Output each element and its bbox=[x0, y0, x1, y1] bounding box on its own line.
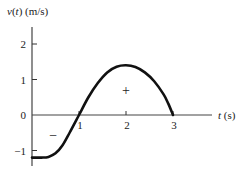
negative-area-sign: − bbox=[49, 128, 57, 143]
x-tick-label: 2 bbox=[124, 119, 130, 131]
y-axis-label-units: (m/s) bbox=[25, 5, 49, 18]
velocity-chart: v(t) (m/s) 210−1123 t (s) −+ bbox=[0, 0, 246, 173]
positive-area-sign: + bbox=[122, 83, 130, 98]
y-axis-label: v(t) (m/s) bbox=[7, 5, 49, 18]
x-tick-label: 1 bbox=[77, 119, 83, 131]
x-tick-label: 3 bbox=[171, 119, 177, 131]
annotations: −+ bbox=[49, 83, 130, 142]
y-tick-label: 1 bbox=[21, 74, 27, 86]
y-tick-label: 2 bbox=[21, 38, 27, 50]
ticks: 210−1123 bbox=[14, 38, 177, 157]
x-axis-label-units-text: (s) bbox=[224, 109, 236, 122]
y-tick-label: −1 bbox=[14, 145, 26, 157]
y-tick-label: 0 bbox=[21, 109, 27, 121]
x-axis-label: t (s) bbox=[218, 109, 236, 122]
velocity-curve bbox=[32, 65, 173, 157]
